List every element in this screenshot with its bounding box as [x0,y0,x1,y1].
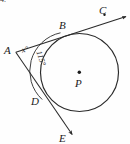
geometry-figure: 4. A B C D E P x° 115° [0,0,130,144]
point-label-d: D [31,96,39,107]
point-label-c: C [99,5,106,16]
point-label-p: P [75,78,82,89]
center-point-dot [78,71,81,74]
point-label-b: B [59,20,66,31]
angle-label-x: x° [21,45,29,54]
point-label-e: E [59,133,66,144]
problem-number: 4. [0,0,6,4]
point-label-a: A [4,45,11,56]
